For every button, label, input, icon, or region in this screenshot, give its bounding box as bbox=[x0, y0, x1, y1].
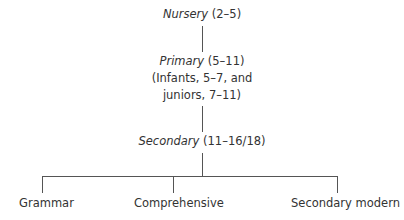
connector-grammar bbox=[42, 176, 43, 193]
node-nursery-name: Nursery bbox=[163, 7, 208, 21]
node-primary-name: Primary bbox=[160, 54, 205, 68]
node-secondary: Secondary (11–16/18) bbox=[138, 134, 265, 149]
branch-bar bbox=[42, 176, 338, 177]
node-nursery-ages: (2–5) bbox=[208, 7, 241, 21]
node-primary-ages: (5–11) bbox=[204, 54, 244, 68]
node-nursery: Nursery (2–5) bbox=[163, 7, 241, 22]
connector-comprehensive bbox=[173, 176, 174, 193]
node-secondary-name: Secondary bbox=[138, 134, 199, 148]
node-secondary-ages: (11–16/18) bbox=[199, 134, 265, 148]
node-primary-note-2: juniors, 7–11) bbox=[163, 88, 241, 103]
connector-secondary-branch bbox=[202, 153, 203, 177]
node-secondary-modern: Secondary modern bbox=[291, 196, 400, 211]
connector-primary-secondary bbox=[202, 106, 203, 132]
connector-secondary-modern bbox=[337, 176, 338, 193]
node-grammar: Grammar bbox=[19, 196, 74, 211]
connector-nursery-primary bbox=[202, 26, 203, 52]
node-primary: Primary (5–11) bbox=[160, 54, 245, 69]
node-comprehensive: Comprehensive bbox=[134, 196, 224, 211]
node-primary-note-1: (Infants, 5–7, and bbox=[152, 71, 253, 86]
